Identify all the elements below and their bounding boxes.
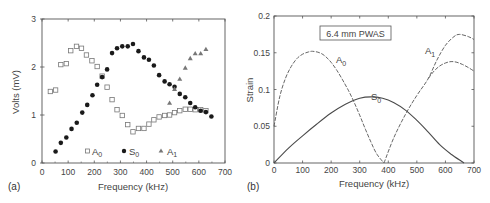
marker-s0 xyxy=(74,120,79,125)
marker-a1 xyxy=(198,51,203,55)
chart-a-xtick: 400 xyxy=(139,167,153,177)
annotation-text: 6.4 mm PWAS xyxy=(326,29,385,39)
curve-label-s0: S0 xyxy=(371,91,381,104)
marker-s0 xyxy=(177,92,182,97)
chart-a-xtick: 600 xyxy=(192,167,206,177)
marker-s0 xyxy=(167,82,172,87)
chart-b-ylabel: Strain xyxy=(244,78,255,103)
marker-a1 xyxy=(188,56,193,60)
marker-s0 xyxy=(162,79,167,84)
legend-a0-label: A0 xyxy=(92,146,102,159)
chart-b-xtick: 400 xyxy=(381,165,395,175)
chart-a-ytick: 1 xyxy=(31,110,36,120)
chart-b-xtick: 700 xyxy=(467,165,481,175)
marker-a0 xyxy=(59,62,63,66)
marker-a1 xyxy=(193,51,198,55)
marker-a0 xyxy=(183,107,187,111)
marker-s0 xyxy=(142,55,147,60)
marker-a1 xyxy=(183,65,188,69)
chart-a: 01002003004005006007000123 A0S0A1 Volts … xyxy=(8,14,232,192)
marker-a0 xyxy=(152,118,156,122)
chart-b-ytick: 0.2 xyxy=(258,11,270,21)
marker-s0 xyxy=(204,110,209,115)
legend-a1-label: A1 xyxy=(167,146,177,159)
marker-s0 xyxy=(100,75,105,80)
chart-b: 010020030040050060070000.050.10.150.2 A0… xyxy=(244,11,481,192)
marker-s0 xyxy=(59,141,64,146)
legend-s0-marker xyxy=(122,149,126,153)
chart-b-panel-label: (b) xyxy=(247,181,259,192)
marker-s0 xyxy=(131,42,136,47)
marker-s0 xyxy=(115,46,120,51)
marker-a0 xyxy=(79,46,83,50)
marker-s0 xyxy=(183,95,188,100)
marker-a0 xyxy=(84,53,88,57)
marker-a0 xyxy=(115,108,119,112)
chart-b-xtick: 500 xyxy=(410,165,424,175)
marker-a0 xyxy=(162,113,166,117)
chart-a-xtick: 100 xyxy=(61,167,75,177)
marker-s0 xyxy=(95,82,100,87)
chart-b-xtick: 0 xyxy=(272,165,277,175)
chart-a-xtick: 200 xyxy=(87,167,101,177)
chart-b-xtick: 600 xyxy=(438,165,452,175)
chart-b-xtick: 300 xyxy=(353,165,367,175)
marker-s0 xyxy=(147,58,152,63)
marker-s0 xyxy=(53,149,58,154)
chart-b-xlabel: Frequency (kHz) xyxy=(339,178,409,189)
curve-label-a1: A1 xyxy=(425,45,435,58)
marker-s0 xyxy=(105,67,110,72)
chart-b-ytick: 0.05 xyxy=(253,121,270,131)
marker-s0 xyxy=(209,114,214,119)
marker-a1 xyxy=(177,76,182,80)
marker-a0 xyxy=(131,130,135,134)
marker-a0 xyxy=(53,88,57,92)
marker-a0 xyxy=(69,48,73,52)
chart-b-xtick: 200 xyxy=(324,165,338,175)
marker-s0 xyxy=(136,49,141,54)
chart-b-ytick: 0 xyxy=(265,158,270,168)
chart-a-xtick: 500 xyxy=(166,167,180,177)
marker-s0 xyxy=(80,110,85,115)
legend-a1-marker xyxy=(159,149,164,153)
marker-a0 xyxy=(110,97,114,101)
marker-s0 xyxy=(152,63,157,68)
marker-a0 xyxy=(126,122,130,126)
marker-s0 xyxy=(188,101,193,106)
legend-s0-label: S0 xyxy=(129,146,139,159)
marker-a0 xyxy=(188,107,192,111)
marker-a0 xyxy=(142,126,146,130)
figure: 01002003004005006007000123 A0S0A1 Volts … xyxy=(0,0,490,203)
chart-a-legend: A0S0A1 xyxy=(86,146,178,159)
marker-a0 xyxy=(167,113,171,117)
chart-a-xlabel: Frequency (kHz) xyxy=(98,181,168,192)
marker-a0 xyxy=(178,108,182,112)
curve-label-a0: A0 xyxy=(336,54,346,67)
legend-a0-marker xyxy=(86,149,90,153)
chart-b-ytick: 0.1 xyxy=(258,85,270,95)
marker-s0 xyxy=(198,108,203,113)
chart-a-frame xyxy=(42,19,225,163)
chart-a-points xyxy=(48,42,214,154)
chart-a-ytick: 0 xyxy=(31,158,36,168)
marker-s0 xyxy=(125,44,130,49)
marker-a0 xyxy=(136,126,140,130)
chart-a-ylabel: Volts (mV) xyxy=(10,70,21,114)
curve-s0 xyxy=(274,97,464,163)
marker-a0 xyxy=(74,44,78,48)
chart-b-xtick: 100 xyxy=(295,165,309,175)
marker-a0 xyxy=(90,59,94,63)
marker-s0 xyxy=(110,51,115,56)
marker-s0 xyxy=(85,103,90,108)
chart-a-ytick: 3 xyxy=(31,14,36,24)
marker-s0 xyxy=(120,44,125,49)
chart-a-xtick: 300 xyxy=(113,167,127,177)
chart-a-panel-label: (a) xyxy=(8,181,20,192)
marker-a0 xyxy=(120,113,124,117)
chart-a-xtick: 0 xyxy=(40,167,45,177)
marker-s0 xyxy=(69,127,74,132)
marker-a0 xyxy=(64,61,68,65)
marker-a0 xyxy=(48,89,52,93)
marker-a0 xyxy=(105,85,109,89)
marker-a0 xyxy=(95,64,99,68)
